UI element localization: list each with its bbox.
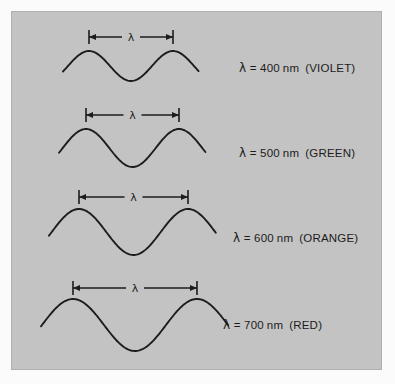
label-unit: nm <box>267 319 283 331</box>
arrowhead-left <box>73 285 80 291</box>
dimension-lambda-violet: λ <box>128 31 135 44</box>
dimension-lambda-green: λ <box>129 109 136 122</box>
dimension-lambda-orange: λ <box>130 191 137 204</box>
label-value: 700 <box>244 319 264 331</box>
label-equals: = <box>230 319 244 331</box>
label-equals: = <box>246 62 260 74</box>
label-value: 400 <box>260 62 280 74</box>
label-color-name: (RED) <box>289 319 322 331</box>
figure-root: λλ = 400nm(VIOLET)λλ = 500nm(GREEN)λλ = … <box>0 0 395 384</box>
label-value: 600 <box>254 232 274 244</box>
label-value: 500 <box>260 147 280 159</box>
label-unit: nm <box>283 62 299 74</box>
label-color-name: (GREEN) <box>305 147 355 159</box>
label-unit: nm <box>283 147 299 159</box>
wavelength-label-orange: λ = 600nm(ORANGE) <box>233 231 358 245</box>
wavelength-label-violet: λ = 400nm(VIOLET) <box>239 61 355 75</box>
label-unit: nm <box>277 232 293 244</box>
label-color-name: (VIOLET) <box>305 62 355 74</box>
wavelength-label-green: λ = 500nm(GREEN) <box>239 146 355 160</box>
diagram-panel: λλ = 400nm(VIOLET)λλ = 500nm(GREEN)λλ = … <box>11 11 382 370</box>
wavelength-label-red: λ = 700nm(RED) <box>223 318 322 332</box>
arrowhead-right <box>190 285 197 291</box>
waveform-path <box>41 299 228 351</box>
label-equals: = <box>240 232 254 244</box>
dimension-lambda-red: λ <box>132 282 139 295</box>
label-color-name: (ORANGE) <box>299 232 358 244</box>
label-equals: = <box>246 147 260 159</box>
